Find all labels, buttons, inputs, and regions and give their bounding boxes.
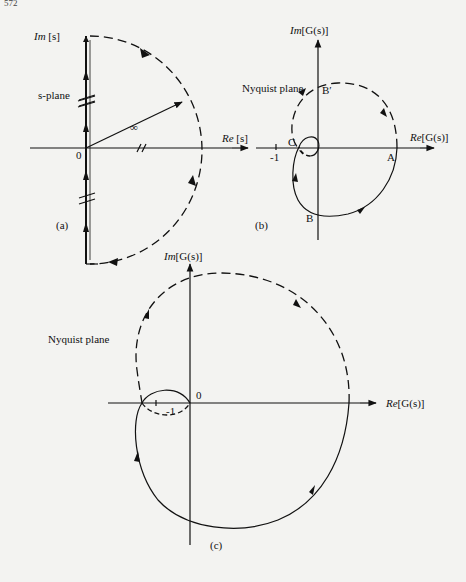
arrow-up-icon <box>83 170 89 180</box>
caption-a: (a) <box>56 219 69 232</box>
point-b: B <box>306 212 313 224</box>
arrow-up-icon <box>83 122 89 132</box>
caption-c: (c) <box>210 539 223 552</box>
infinite-semicircle <box>90 36 202 264</box>
origin-label: 0 <box>76 149 82 161</box>
small-loop-solid <box>142 390 190 403</box>
arrow-icon <box>380 108 387 117</box>
nyquist-plane-label: Nyquist plane <box>242 82 304 94</box>
caption-b: (b) <box>255 219 268 232</box>
arrow-icon <box>309 485 315 495</box>
radius-infinity-label: ∞ <box>130 121 138 133</box>
re-s-axis-label: Re [s] <box>221 132 248 144</box>
arrow-up-icon <box>83 70 89 80</box>
panel-a-s-plane: ∞ Im [s] Re [s] s-plane 0 (a) <box>30 30 248 266</box>
s-plane-label: s-plane <box>38 89 70 101</box>
page-number: 572 <box>4 0 18 8</box>
nyquist-plane-label: Nyquist plane <box>48 333 110 345</box>
arrow-left-icon <box>108 258 118 266</box>
point-b-prime: B′ <box>322 84 332 96</box>
re-g-axis-label: Re[G(s)] <box>385 397 425 410</box>
im-g-axis-label: Im[G(s)] <box>289 24 329 37</box>
re-g-axis-label: Re[G(s)] <box>409 131 449 144</box>
nyquist-curve-solid <box>135 403 349 528</box>
im-g-axis-label: Im[G(s)] <box>163 250 203 263</box>
arrow-icon <box>357 207 365 214</box>
nyquist-figure: 572 ∞ Im [s] Re [s] s-plane 0 <box>0 0 466 582</box>
arrow-cw-icon <box>188 175 196 186</box>
arrow-up-icon <box>83 36 89 42</box>
arrow-icon <box>293 299 301 308</box>
point-c: C <box>288 136 295 148</box>
panel-b-nyquist: Im[G(s)] Re[G(s)] Nyquist plane B′ C A B… <box>242 24 449 240</box>
minus-one-label: -1 <box>270 151 279 163</box>
nyquist-curve-dashed <box>136 273 349 403</box>
arrow-icon <box>144 309 149 319</box>
panel-c-nyquist: Im[G(s)] Re[G(s)] Nyquist plane 0 -1 (c) <box>48 250 425 552</box>
origin-label: 0 <box>196 389 202 401</box>
im-s-axis-label: Im [s] <box>33 30 60 42</box>
arrow-up-icon <box>83 222 89 232</box>
nyquist-curve-dashed <box>292 83 397 154</box>
nyquist-curve-solid <box>293 147 397 216</box>
minus-one-label: -1 <box>166 405 175 417</box>
point-a: A <box>387 151 395 163</box>
